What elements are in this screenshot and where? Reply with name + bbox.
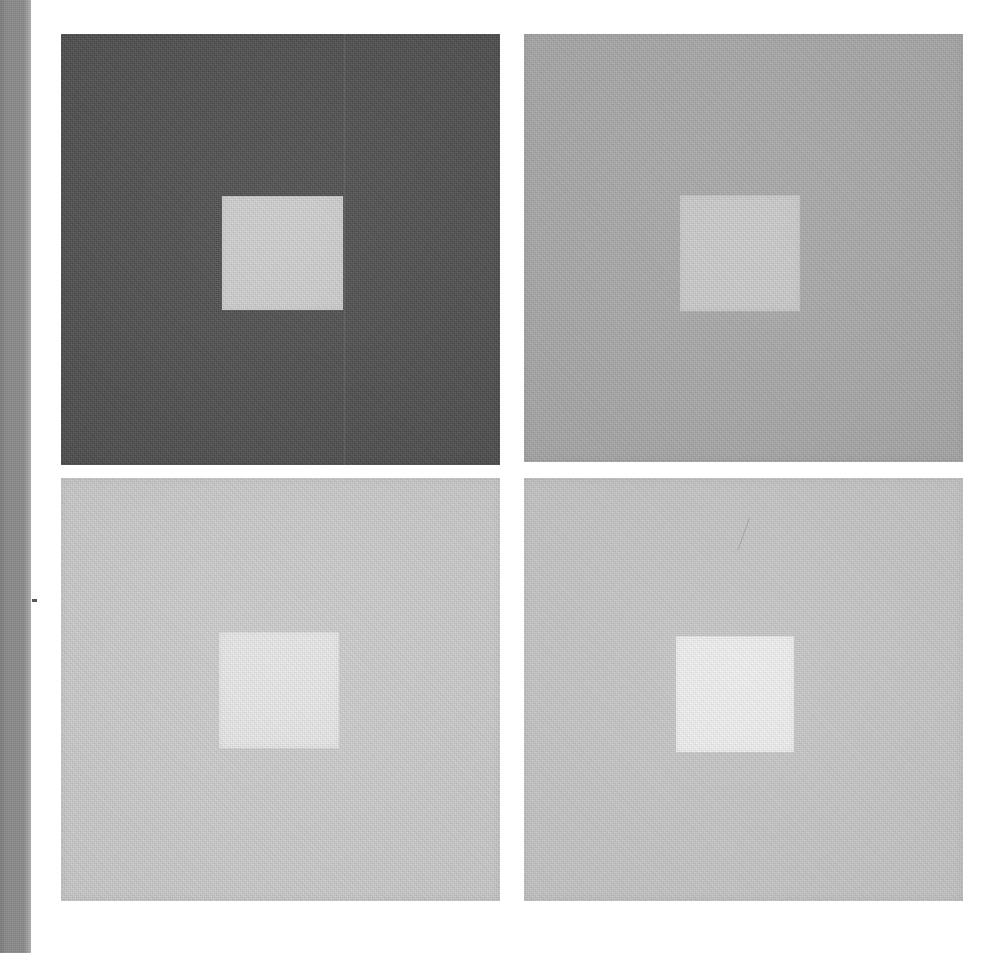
inner-paper-texture — [680, 195, 800, 311]
inner-paper-texture — [676, 636, 794, 752]
contrast-panel-top-right — [524, 34, 963, 462]
inner-edge-shading — [680, 195, 800, 311]
panel-seam-line — [344, 34, 345, 465]
inner-edge-shading — [219, 632, 339, 748]
inner-paper-texture — [222, 196, 343, 310]
contrast-panel-top-left — [61, 34, 500, 465]
plate-canvas — [0, 0, 999, 953]
inner-square-bottom-right — [676, 636, 794, 752]
inner-square-top-right — [680, 195, 800, 311]
margin-tick-mark — [32, 599, 37, 602]
pencil-stroke-mark — [737, 518, 750, 550]
inner-edge-shading — [676, 636, 794, 752]
inner-square-top-left — [222, 196, 343, 310]
inner-paper-texture — [219, 632, 339, 748]
contrast-panel-bottom-left — [61, 478, 500, 901]
inner-square-bottom-left — [219, 632, 339, 748]
contrast-panel-bottom-right — [524, 478, 963, 901]
gutter-left-shading — [0, 0, 6, 953]
gutter-strip — [0, 0, 31, 953]
inner-edge-shading — [222, 196, 343, 310]
gutter-right-shading — [24, 0, 31, 953]
